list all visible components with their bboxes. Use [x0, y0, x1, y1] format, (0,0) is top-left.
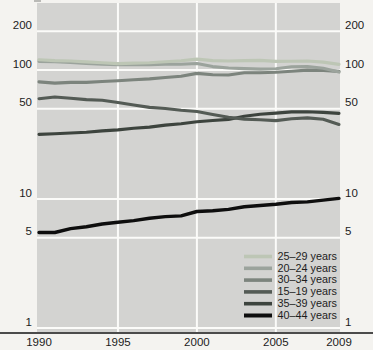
legend-label-4: 35–39 years: [278, 297, 338, 309]
ytick-left-50: 50: [19, 96, 32, 108]
ytick-right-50: 50: [345, 96, 358, 108]
ytick-left-100: 100: [13, 58, 32, 70]
legend-label-2: 30–34 years: [278, 273, 338, 285]
xtick-1990: 1990: [26, 336, 52, 348]
chart-figure: 2002001001005050101055111990199520002005…: [0, 0, 373, 350]
legend-label-5: 40–44 years: [278, 309, 338, 321]
legend-label-0: 25–29 years: [278, 250, 338, 262]
legend-label-3: 15–19 years: [278, 285, 338, 297]
birth-rates-line-chart: 2002001001005050101055111990199520002005…: [0, 0, 373, 350]
ytick-right-100: 100: [345, 58, 364, 70]
ytick-right-10: 10: [345, 187, 358, 199]
cropped-title-remnant: [34, 0, 41, 2]
xtick-2005: 2005: [263, 336, 289, 348]
legend-label-1: 20–24 years: [278, 262, 338, 274]
ytick-right-1: 1: [345, 316, 351, 328]
xtick-1995: 1995: [105, 336, 131, 348]
ytick-left-5: 5: [26, 225, 32, 237]
ytick-left-10: 10: [19, 187, 32, 199]
xtick-2000: 2000: [184, 336, 210, 348]
xtick-2009: 2009: [326, 336, 352, 348]
ytick-left-1: 1: [26, 316, 32, 328]
ytick-right-200: 200: [345, 19, 364, 31]
ytick-right-5: 5: [345, 225, 351, 237]
ytick-left-200: 200: [13, 19, 32, 31]
